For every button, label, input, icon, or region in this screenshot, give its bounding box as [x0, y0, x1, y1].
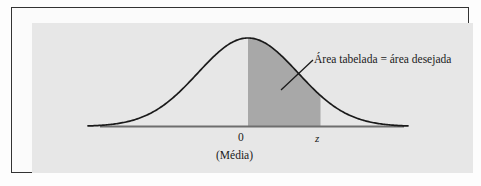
axis-label-mean: (Média) — [216, 150, 253, 162]
axis-tick-label-z: z — [315, 133, 319, 144]
figure-root: 0 z (Média) Área tabelada = área desejad… — [0, 0, 481, 186]
shaded-area-annotation: Área tabelada = área desejada — [314, 53, 451, 66]
axis-tick-label-zero: 0 — [238, 132, 244, 144]
